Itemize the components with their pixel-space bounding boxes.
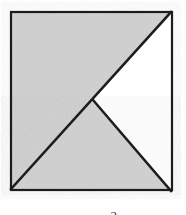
figure-caption: 2	[0, 202, 186, 215]
geometric-figure	[0, 0, 186, 215]
figure-page: 2	[0, 0, 186, 215]
figure-caption-text: 2	[111, 209, 118, 215]
